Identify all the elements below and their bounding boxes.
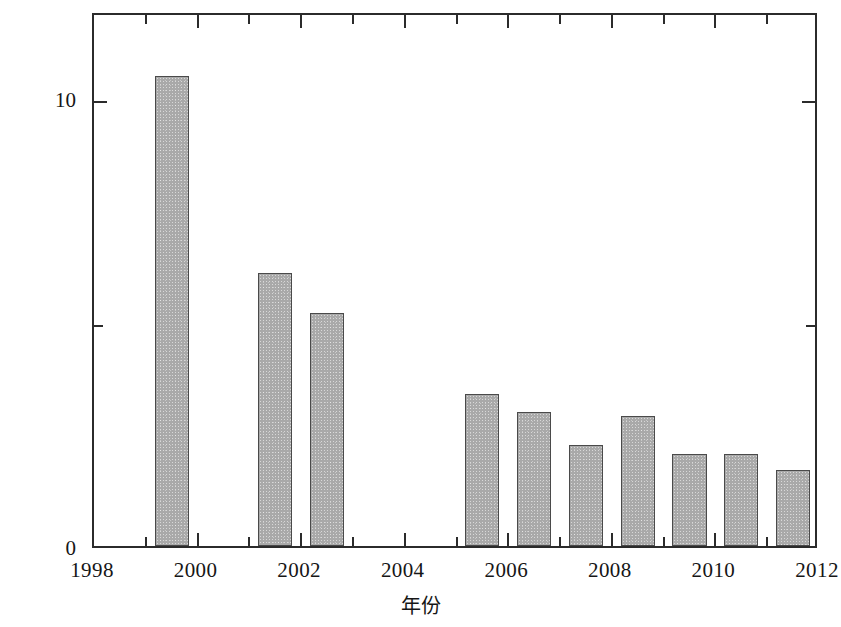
x-tick-label-2000: 2000	[174, 560, 218, 581]
chart-figure: 基建拨款占总经费的比例(%) 年份 1998200020022004200620…	[0, 0, 841, 627]
x-tick-2011	[766, 537, 768, 546]
plot-inner	[94, 15, 815, 546]
y-tick-label-0: 0	[0, 538, 76, 559]
x-tick-2005	[456, 537, 458, 546]
x-tick-2008	[611, 533, 613, 546]
x-tick-label-2010: 2010	[692, 560, 736, 581]
y-tick-10	[94, 101, 107, 103]
x-tick-label-1998: 1998	[70, 560, 114, 581]
x-tick-label-2002: 2002	[277, 560, 321, 581]
bar-2006	[517, 412, 551, 546]
x-tick-top-2009	[663, 15, 665, 24]
bar-2008	[621, 416, 655, 546]
bar-2001	[258, 273, 292, 546]
x-tick-2006	[507, 533, 509, 546]
x-tick-2003	[352, 537, 354, 546]
bar-2005	[465, 394, 499, 546]
x-tick-label-2006: 2006	[484, 560, 528, 581]
x-tick-top-1999	[145, 15, 147, 24]
x-tick-top-2011	[766, 15, 768, 24]
x-tick-2002	[300, 533, 302, 546]
x-tick-2000	[197, 533, 199, 546]
y-tick-label-10: 10	[0, 89, 76, 110]
plot-area	[92, 13, 817, 548]
x-tick-top-2008	[611, 15, 613, 28]
x-tick-label-2012: 2012	[795, 560, 839, 581]
x-tick-top-2006	[507, 15, 509, 28]
x-tick-top-2007	[559, 15, 561, 24]
bar-2010	[724, 454, 758, 546]
bar-2011	[776, 470, 810, 546]
bar-2007	[569, 445, 603, 546]
x-tick-top-2002	[300, 15, 302, 28]
bar-1999	[155, 76, 189, 546]
x-tick-2009	[663, 537, 665, 546]
bar-2002	[310, 313, 344, 546]
x-tick-2010	[714, 533, 716, 546]
x-tick-2007	[559, 537, 561, 546]
x-tick-top-2004	[404, 15, 406, 28]
y-tick-5	[94, 325, 103, 327]
x-tick-top-2000	[197, 15, 199, 28]
bar-2009	[672, 454, 706, 546]
y-tick-right-10	[802, 101, 815, 103]
x-tick-label-2004: 2004	[381, 560, 425, 581]
x-tick-top-2003	[352, 15, 354, 24]
x-tick-top-2005	[456, 15, 458, 24]
x-tick-label-2008: 2008	[588, 560, 632, 581]
x-tick-top-2010	[714, 15, 716, 28]
x-tick-2004	[404, 533, 406, 546]
x-axis-title: 年份	[0, 594, 841, 618]
x-tick-top-2001	[248, 15, 250, 24]
x-tick-1999	[145, 537, 147, 546]
y-tick-right-5	[806, 325, 815, 327]
x-tick-2001	[248, 537, 250, 546]
